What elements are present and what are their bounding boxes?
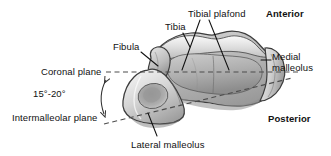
- label-posterior: Posterior: [268, 113, 311, 124]
- label-tibia: Tibia: [165, 21, 186, 32]
- label-fibula: Fibula: [113, 41, 139, 52]
- angle-arc-arrow: [101, 80, 106, 114]
- anatomy-figure: Tibial plafond Anterior Tibia Fibula Med…: [0, 0, 331, 156]
- label-interplanar-angle: 15°-20°: [33, 88, 66, 99]
- label-coronal-plane: Coronal plane: [41, 66, 101, 77]
- label-lateral-malleolus: Lateral malleolus: [131, 139, 205, 150]
- label-anterior: Anterior: [266, 8, 304, 19]
- label-medial-malleolus: Medial malleolus: [272, 51, 313, 73]
- label-intermalleolar-plane: Intermalleolar plane: [12, 112, 97, 123]
- label-tibial-plafond: Tibial plafond: [188, 8, 246, 19]
